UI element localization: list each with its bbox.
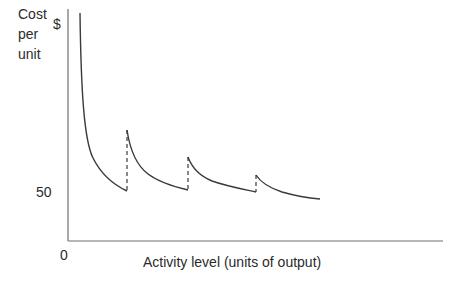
chart-plot bbox=[0, 0, 471, 283]
cost-curve-segment-4 bbox=[256, 175, 320, 199]
cost-curve-segment-1 bbox=[80, 13, 127, 191]
cost-curve-segment-3 bbox=[188, 157, 256, 192]
cost-curve-segment-2 bbox=[127, 130, 188, 190]
